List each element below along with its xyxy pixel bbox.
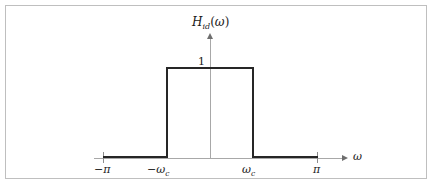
y-axis-arrowhead-icon — [207, 33, 213, 39]
curve-segment-falling-edge — [252, 67, 254, 158]
x-axis-label-omega: ω — [353, 151, 362, 162]
title-close-paren: ) — [225, 15, 230, 29]
x-tick-label-pos-pi: π — [313, 164, 320, 175]
curve-segment-rising-edge — [166, 67, 168, 158]
curve-segment-left-stopband — [103, 156, 167, 158]
curve-segment-right-stopband — [252, 156, 318, 158]
figure-container: Hid(ω) 1 ω −π −ωc ωc π — [0, 0, 433, 185]
curve-segment-passband — [166, 67, 254, 69]
y-axis-label-one: 1 — [198, 56, 205, 67]
vertical-axis-line — [210, 37, 211, 158]
x-tick-label-neg-cutoff: −ωc — [147, 164, 169, 178]
title-omega: ω — [215, 15, 225, 29]
chart-title: Hid(ω) — [192, 16, 229, 31]
title-subscript: id — [202, 22, 210, 31]
figure-frame-border: Hid(ω) 1 ω −π −ωc ωc π — [5, 5, 427, 179]
pos-cutoff-subscript: c — [251, 169, 255, 178]
x-axis-arrowhead-icon — [342, 155, 348, 161]
pos-cutoff-omega: ω — [242, 163, 251, 176]
x-tick-label-neg-pi: −π — [94, 164, 110, 175]
neg-cutoff-subscript: c — [165, 169, 169, 178]
x-tick-label-pos-cutoff: ωc — [242, 164, 255, 178]
title-base: H — [192, 15, 202, 29]
neg-cutoff-omega: −ω — [147, 163, 165, 176]
